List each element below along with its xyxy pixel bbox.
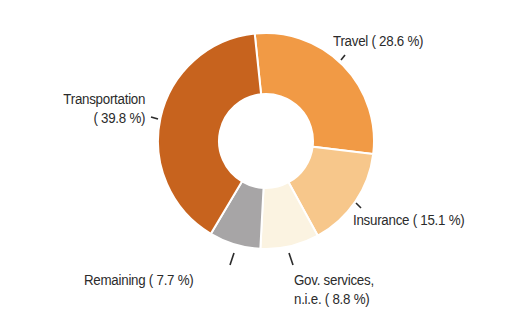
- insurance-leader-tick: [356, 203, 361, 208]
- label-remaining: Remaining ( 7.7 %): [84, 270, 193, 289]
- label-gov-services: Gov. services, n.i.e. ( 8.8 %): [294, 270, 374, 308]
- remaining-leader-tick: [230, 253, 234, 265]
- label-transportation: Transportation ( 39.8 %): [63, 89, 145, 127]
- label-travel: Travel ( 28.6 %): [333, 31, 423, 50]
- label-transportation-name: Transportation: [63, 89, 145, 108]
- label-gov-services-value: n.i.e. ( 8.8 %): [294, 289, 374, 308]
- travel-leader-tick: [341, 55, 345, 60]
- transportation-leader-tick: [151, 117, 158, 119]
- label-transportation-value: ( 39.8 %): [63, 108, 145, 127]
- label-insurance: Insurance ( 15.1 %): [353, 210, 464, 229]
- gov-services-leader-tick: [289, 253, 293, 265]
- slice-travel: [255, 33, 374, 154]
- donut-slices: [158, 33, 374, 249]
- donut-chart: [0, 0, 531, 329]
- label-gov-services-name: Gov. services,: [294, 270, 374, 289]
